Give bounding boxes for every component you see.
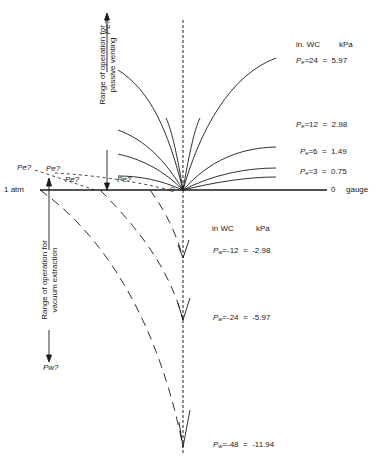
- pe-question-dashed-lines: [35, 170, 170, 190]
- positive-unit-inwc: in. WC: [296, 41, 320, 49]
- negative-unit-kpa: kPa: [256, 225, 270, 233]
- pw-arrow-label: Pw?: [43, 364, 59, 372]
- pe-24-label: Pe=24 = 5.97: [296, 57, 347, 66]
- pw-minus12-label: Pw=-12 = -2.98: [213, 247, 270, 256]
- pw-minus48-label: Pw=-48 = -11.94: [213, 441, 274, 450]
- pe-6-label: Pe=6 = 1.49: [300, 148, 347, 157]
- pe-arrow-label: Pe?: [103, 17, 113, 37]
- atmospheric-label: 1 atm: [4, 186, 24, 194]
- gauge-label: gauge: [346, 186, 368, 194]
- pe-question-4: Pe?: [117, 176, 131, 184]
- gauge-zero-label: 0: [331, 186, 335, 194]
- vacuum-tips: [178, 240, 190, 447]
- pw-minus24-label: Pw=-24 = -5.97: [213, 314, 270, 323]
- pe-3-label: Pe=3 = 0.75: [300, 168, 347, 177]
- negative-unit-inwc: in WC: [212, 225, 234, 233]
- vacuum-extraction-range-label: Range of operation for vacuum extraction: [40, 215, 60, 345]
- origin-label: 0: [170, 186, 174, 194]
- pe-12-label: Pe=12 = 2.98: [296, 121, 347, 130]
- positive-curves-left: [118, 70, 183, 190]
- positive-unit-kpa: kPa: [339, 41, 353, 49]
- pe-question-3: Pe?: [65, 176, 79, 184]
- pe-question-2: Pe?: [46, 165, 60, 173]
- pe-question-1: Pe?: [17, 164, 31, 172]
- positive-curves-right: [183, 58, 276, 190]
- vacuum-curves: [40, 190, 183, 447]
